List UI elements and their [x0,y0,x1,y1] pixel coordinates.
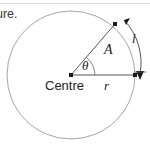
screenshot-canvas: ure. Centre θ r A l [0,0,150,148]
arc-length-label: l [132,31,136,47]
centre-label: Centre [45,78,84,93]
radius-label: r [104,78,109,94]
theta-angle-label: θ [82,58,88,74]
circle-sector-diagram [0,0,150,148]
sector-upper-point-marker [113,22,117,26]
centre-point-marker [69,73,73,77]
area-label: A [104,42,113,58]
sector-right-point-marker [133,73,137,77]
arc-length-measure-curve [124,20,141,74]
